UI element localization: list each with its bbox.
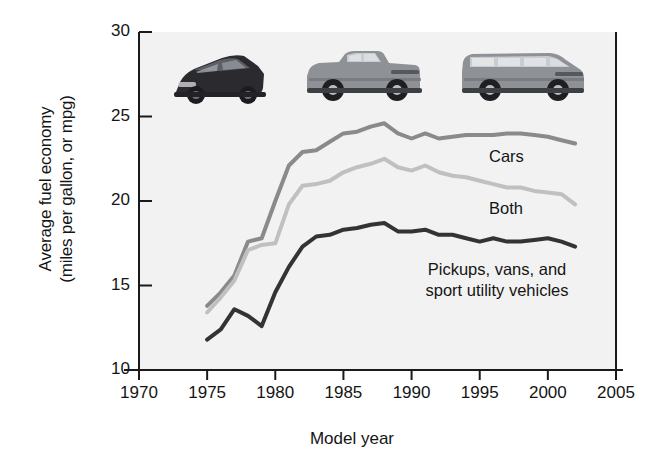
x-tick-label-1975: 1975	[177, 383, 237, 403]
x-tick-label-1990: 1990	[382, 383, 442, 403]
x-tick-label-1970: 1970	[109, 383, 169, 403]
y-tick-label-20: 20	[96, 190, 130, 210]
x-tick-label-1995: 1995	[450, 383, 510, 403]
plot-area	[0, 0, 658, 475]
y-tick-label-10: 10	[96, 359, 130, 379]
x-axis-title-text: Model year	[264, 429, 394, 448]
series-label-pickups-vans-suvs: Pickups, vans, and sport utility vehicle…	[392, 259, 602, 301]
y-tick-label-15: 15	[96, 275, 130, 295]
fuel-economy-chart: Average fuel economy (miles per gallon, …	[0, 0, 658, 475]
series-label-cars: Cars	[489, 146, 524, 167]
y-tick-label-25: 25	[96, 106, 130, 126]
y-tick-label-30: 30	[96, 21, 130, 41]
x-axis-title: Model year	[0, 429, 658, 449]
series-label-both: Both	[489, 198, 523, 219]
x-tick-label-1980: 1980	[245, 383, 305, 403]
x-tick-label-2000: 2000	[518, 383, 578, 403]
x-tick-label-2005: 2005	[586, 383, 646, 403]
x-tick-label-1985: 1985	[313, 383, 373, 403]
